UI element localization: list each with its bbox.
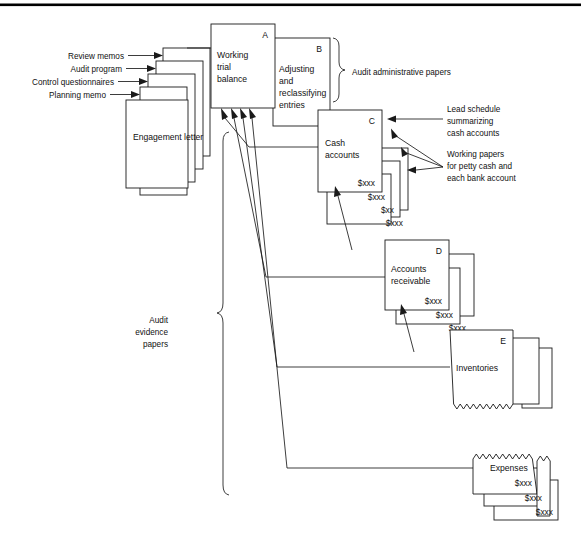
box-c-id: C xyxy=(369,116,375,126)
engagement-letter-label-line1: Engagement letter xyxy=(133,132,203,142)
input-label-planning-memo: Planning memo xyxy=(49,91,106,100)
engagement-letter-paper xyxy=(126,100,188,188)
evidence-papers-brace xyxy=(217,132,229,495)
diagram-canvas: Review memos Audit program Control quest… xyxy=(0,0,581,540)
working-papers-label-line1: Working papers xyxy=(447,150,504,159)
box-a-title-line1: Working xyxy=(217,50,249,60)
evidence-papers-label-line1: Audit xyxy=(149,316,168,325)
box-d-title-line2: receivable xyxy=(391,276,430,286)
expense-stack-amount-1: $xxx xyxy=(525,493,543,503)
box-f-title-line1: Expenses xyxy=(490,463,528,473)
top-rule xyxy=(0,4,581,7)
box-a-title-line2: trial xyxy=(217,62,231,72)
lead-schedule-label-line1: Lead schedule xyxy=(447,105,501,114)
box-b-title-line2: and xyxy=(279,76,294,86)
working-papers-label-line3: each bank account xyxy=(447,174,516,183)
lead-schedule-label-line2: summarizing xyxy=(447,117,494,126)
expense-stack-amount-2: $xxx xyxy=(536,507,554,517)
box-c-title-line1: Cash xyxy=(325,138,345,148)
cash-stack-amount-2: $xx xyxy=(381,205,395,215)
box-e-id: E xyxy=(500,336,506,346)
box-b-title-line3: reclassifying xyxy=(279,88,327,98)
arrow-control-questionnaires xyxy=(118,78,148,85)
box-a-id: A xyxy=(262,30,268,40)
input-label-audit-program: Audit program xyxy=(71,65,123,74)
box-b-title-line4: entries xyxy=(279,100,305,110)
ar-stack-amount-1: $xxx xyxy=(436,310,454,320)
box-f-amount: $xxx xyxy=(515,478,533,488)
cash-stack-amount-3: $xxx xyxy=(386,218,404,228)
cash-stack-amount-1: $xxx xyxy=(368,192,386,202)
arrow-review-memos xyxy=(128,52,163,59)
box-b-id: B xyxy=(316,44,322,54)
box-d-id: D xyxy=(436,246,442,256)
lead-schedule-arrow xyxy=(387,116,443,123)
evidence-papers-label-line3: papers xyxy=(143,340,168,349)
box-e-title-line1: Inventories xyxy=(456,363,498,373)
admin-papers-label: Audit administrative papers xyxy=(352,68,451,77)
input-label-control-questionnaires: Control questionnaires xyxy=(32,78,114,87)
lead-schedule-label-line3: cash accounts xyxy=(447,129,499,138)
box-f-expenses xyxy=(473,454,537,494)
inventories-stack-paper-1 xyxy=(509,338,539,404)
audit-workpaper-flowchart: Review memos Audit program Control quest… xyxy=(0,0,581,540)
arrow-audit-program xyxy=(126,65,156,72)
box-c-amount: $xxx xyxy=(358,178,376,188)
input-label-review-memos: Review memos xyxy=(68,52,124,61)
arrow-planning-memo xyxy=(110,91,140,98)
admin-papers-brace xyxy=(333,38,345,102)
box-b-title-line1: Adjusting xyxy=(279,64,315,74)
box-d-amount: $xxx xyxy=(425,296,443,306)
box-d-title-line1: Accounts xyxy=(391,264,426,274)
working-papers-label-line2: for petty cash and xyxy=(447,162,513,171)
box-a-title-line3: balance xyxy=(217,74,247,84)
evidence-papers-label-line2: evidence xyxy=(135,328,168,337)
box-c-title-line2: accounts xyxy=(325,150,359,160)
